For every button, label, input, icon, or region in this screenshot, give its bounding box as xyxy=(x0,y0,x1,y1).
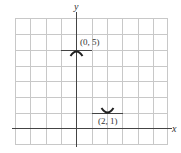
point-label-max: (0, 5) xyxy=(80,38,100,47)
x-axis-label: x xyxy=(172,124,176,134)
point-label-min: (2, 1) xyxy=(98,117,118,126)
y-axis-label: y xyxy=(74,2,78,12)
coordinate-grid xyxy=(0,0,181,153)
